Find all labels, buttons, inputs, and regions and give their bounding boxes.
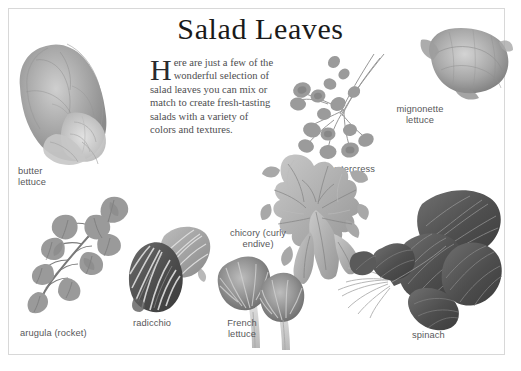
radicchio-image: [112, 222, 214, 314]
drop-cap: H: [150, 56, 174, 82]
label-chicory: chicory (curly endive): [214, 228, 302, 251]
spinach-image: [310, 186, 510, 331]
label-arugula: arugula (rocket): [20, 328, 87, 339]
butter-lettuce-image: [12, 30, 137, 170]
watercress-image: [288, 44, 390, 160]
label-radicchio: radicchio: [133, 318, 171, 329]
label-spinach: spinach: [412, 330, 445, 341]
label-butter-lettuce: butter lettuce: [18, 166, 46, 189]
salad-leaves-page: Salad Leaves Here are just a few of the …: [0, 0, 521, 371]
intro-paragraph: Here are just a few of the wonderful sel…: [150, 56, 276, 136]
label-french-lettuce: French lettuce: [211, 318, 273, 341]
mignonette-lettuce-image: [415, 24, 515, 102]
